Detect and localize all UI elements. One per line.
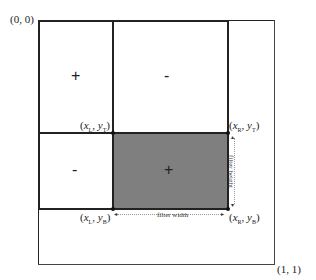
height-arrow-bottom-head: ▾ (231, 202, 234, 208)
height-arrow-top-head: ▴ (231, 134, 234, 140)
outer-frame-bottom (38, 264, 275, 265)
sign-bottom-right: + (164, 162, 173, 178)
sign-bottom-left: - (72, 162, 77, 178)
width-arrow-right-head: ▸ (221, 211, 224, 217)
sign-top-right: - (164, 68, 169, 84)
point-label-top-right: (xR, yT) (229, 120, 259, 133)
outer-frame-top-bold (38, 20, 229, 22)
grid-line-y-bottom (38, 208, 229, 210)
filter-height-label: filter height (227, 155, 234, 188)
point-label-bottom-right: (xR, yB) (229, 212, 260, 225)
sign-top-left: + (71, 68, 80, 84)
outer-frame-right (274, 20, 275, 265)
point-label-top-left: (xL, yT) (80, 120, 110, 133)
origin-label: (0, 0) (10, 14, 34, 25)
outer-frame-left-bold (38, 20, 40, 210)
point-top-left-dot (111, 131, 115, 135)
grid-line-y-top (38, 132, 229, 134)
grid-line-x-left (112, 20, 114, 210)
filter-width-label: filter width (157, 212, 188, 219)
end-label: (1, 1) (277, 264, 301, 275)
point-label-bottom-left: (xL, yB) (80, 212, 110, 225)
width-arrow-left-head: ◂ (114, 211, 117, 217)
